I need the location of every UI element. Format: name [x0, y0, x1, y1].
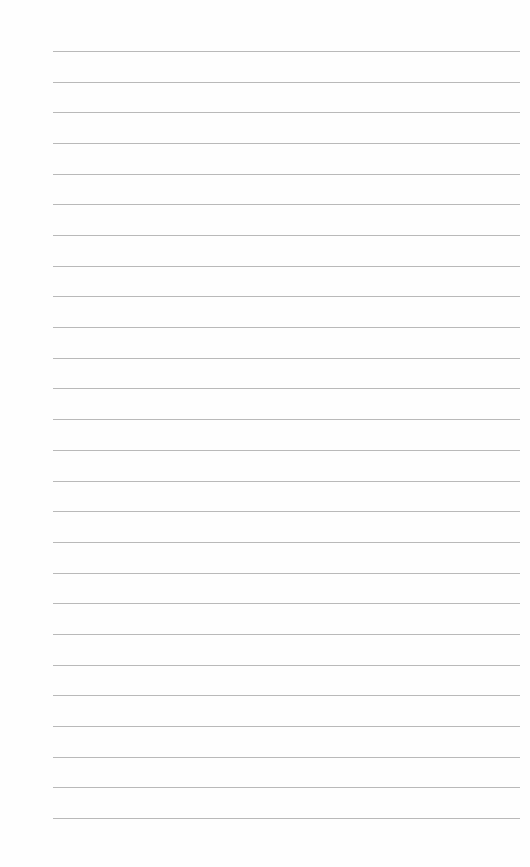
ruled-line [53, 634, 520, 635]
ruled-line [53, 450, 520, 451]
ruled-line [53, 204, 520, 205]
lined-paper-page [0, 0, 530, 867]
ruled-line [53, 296, 520, 297]
ruled-line [53, 511, 520, 512]
ruled-line [53, 51, 520, 52]
ruled-line [53, 82, 520, 83]
ruled-line [53, 665, 520, 666]
ruled-line [53, 757, 520, 758]
ruled-line [53, 358, 520, 359]
ruled-line [53, 726, 520, 727]
ruled-line [53, 235, 520, 236]
ruled-line [53, 143, 520, 144]
ruled-line [53, 818, 520, 819]
ruled-line [53, 327, 520, 328]
ruled-line [53, 419, 520, 420]
ruled-line [53, 266, 520, 267]
ruled-line [53, 112, 520, 113]
ruled-line [53, 174, 520, 175]
ruled-line [53, 573, 520, 574]
ruled-line [53, 695, 520, 696]
ruled-line [53, 542, 520, 543]
ruled-line [53, 481, 520, 482]
ruled-line [53, 603, 520, 604]
ruled-line [53, 787, 520, 788]
ruled-line [53, 388, 520, 389]
